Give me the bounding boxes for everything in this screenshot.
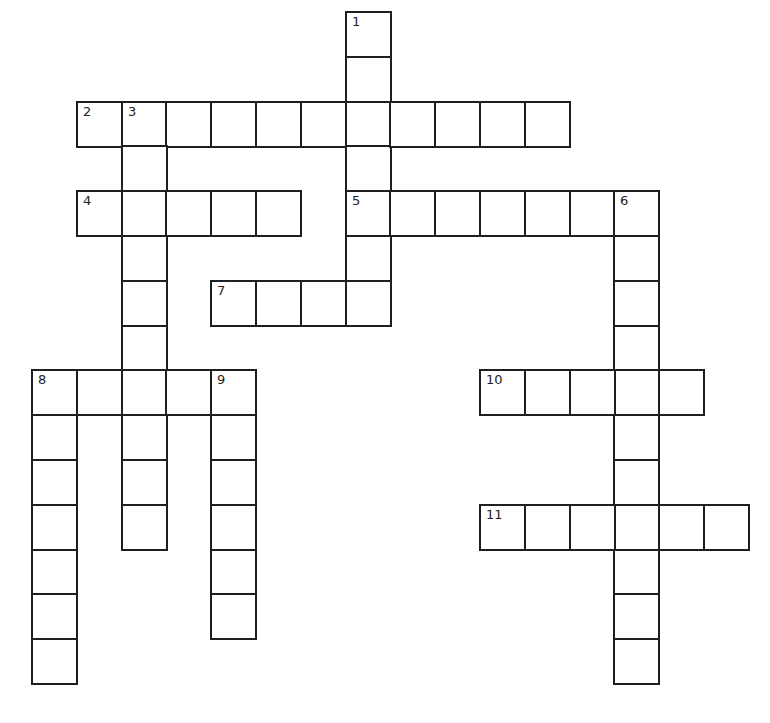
clue-number: 6 [620,194,628,207]
crossword-cell[interactable]: 10 [479,369,526,416]
crossword-cell[interactable] [658,369,705,416]
crossword-cell[interactable] [613,638,660,685]
crossword-cell[interactable] [255,101,302,148]
clue-number: 2 [83,105,91,118]
crossword-cell[interactable] [210,414,257,461]
crossword-cell[interactable] [121,235,168,282]
crossword-cell[interactable] [31,593,78,640]
crossword-cell[interactable] [121,369,168,416]
clue-number: 10 [486,373,503,386]
clue-number: 11 [486,508,503,521]
crossword-cell[interactable] [31,414,78,461]
crossword-cell[interactable] [524,369,571,416]
crossword-cell[interactable] [479,190,526,237]
crossword-cell[interactable]: 8 [31,369,78,416]
crossword-cell[interactable] [613,280,660,327]
crossword-cell[interactable] [345,56,392,103]
crossword-cell[interactable] [613,325,660,372]
crossword-cell[interactable] [300,280,347,327]
crossword-cell[interactable] [345,235,392,282]
crossword-cell[interactable] [613,369,660,416]
crossword-cell[interactable] [569,504,616,551]
crossword-cell[interactable] [703,504,750,551]
crossword-cell[interactable] [121,280,168,327]
crossword-cell[interactable]: 7 [210,280,257,327]
crossword-cell[interactable]: 1 [345,11,392,58]
crossword-cell[interactable] [210,101,257,148]
crossword-cell[interactable] [524,190,571,237]
crossword-cell[interactable] [255,280,302,327]
crossword-cell[interactable] [210,459,257,506]
crossword-cell[interactable] [121,414,168,461]
clue-number: 1 [352,15,360,28]
crossword-cell[interactable] [389,190,436,237]
crossword-cell[interactable]: 3 [121,101,168,148]
crossword-cell[interactable] [300,101,347,148]
crossword-cell[interactable] [613,414,660,461]
crossword-cell[interactable] [569,369,616,416]
crossword-cell[interactable] [613,235,660,282]
crossword-cell[interactable] [165,101,212,148]
clue-number: 7 [217,284,225,297]
crossword-cell[interactable] [165,369,212,416]
crossword-cell[interactable] [479,101,526,148]
crossword-cell[interactable] [121,190,168,237]
crossword-cell[interactable] [121,325,168,372]
crossword-cell[interactable] [613,593,660,640]
crossword-cell[interactable] [434,190,481,237]
crossword-cell[interactable] [76,369,123,416]
clue-number: 4 [83,194,91,207]
crossword-cell[interactable] [121,459,168,506]
crossword-cell[interactable]: 4 [76,190,123,237]
crossword-cell[interactable]: 5 [345,190,392,237]
crossword-cell[interactable] [434,101,481,148]
clue-number: 9 [217,373,225,386]
crossword-cell[interactable] [121,504,168,551]
crossword-cell[interactable] [31,638,78,685]
crossword-cell[interactable] [613,549,660,596]
crossword-cell[interactable] [210,593,257,640]
crossword-cell[interactable]: 11 [479,504,526,551]
crossword-cell[interactable] [345,145,392,192]
crossword-cell[interactable] [613,459,660,506]
crossword-cell[interactable] [31,459,78,506]
crossword-cell[interactable] [210,549,257,596]
clue-number: 3 [128,105,136,118]
crossword-cell[interactable] [345,101,392,148]
crossword-cell[interactable] [569,190,616,237]
crossword-cell[interactable] [210,504,257,551]
crossword-cell[interactable] [31,504,78,551]
crossword-cell[interactable]: 6 [613,190,660,237]
crossword-cell[interactable] [31,549,78,596]
crossword-cell[interactable] [345,280,392,327]
crossword-cell[interactable]: 9 [210,369,257,416]
crossword-cell[interactable] [524,101,571,148]
crossword-cell[interactable] [524,504,571,551]
crossword-cell[interactable] [165,190,212,237]
crossword-cell[interactable] [658,504,705,551]
clue-number: 8 [38,373,46,386]
crossword-cell[interactable]: 2 [76,101,123,148]
clue-number: 5 [352,194,360,207]
crossword-cell[interactable] [613,504,660,551]
crossword-grid: 1523467891011 [0,0,770,723]
crossword-cell[interactable] [389,101,436,148]
crossword-cell[interactable] [210,190,257,237]
crossword-cell[interactable] [121,145,168,192]
crossword-cell[interactable] [255,190,302,237]
